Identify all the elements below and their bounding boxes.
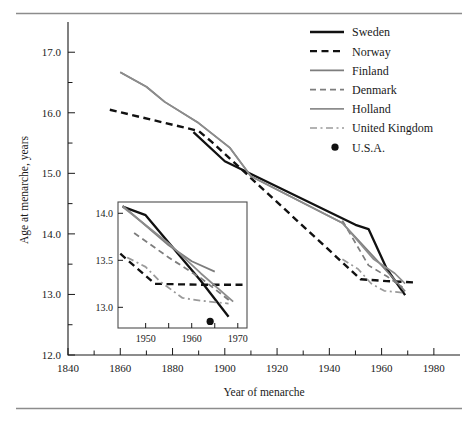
figure-container: 12.013.014.015.016.017.01840186018801900… — [0, 0, 474, 421]
legend-label: Norway — [352, 45, 391, 59]
x-axis-title: Year of menarche — [223, 386, 304, 398]
y-tick-label: 12.0 — [42, 349, 62, 361]
inset-x-tick-label: 1960 — [182, 333, 202, 344]
legend-label: Finland — [352, 64, 389, 78]
inset-chart: 13.013.514.0195019601970 — [96, 202, 248, 344]
x-tick-label: 1940 — [318, 362, 341, 374]
legend-label: Denmark — [352, 83, 397, 97]
x-tick-label: 1840 — [57, 362, 80, 374]
x-tick-label: 1980 — [423, 362, 446, 374]
x-tick-label: 1960 — [371, 362, 394, 374]
x-tick-label: 1900 — [214, 362, 237, 374]
y-tick-label: 14.0 — [42, 228, 62, 240]
y-tick-label: 15.0 — [42, 167, 62, 179]
inset-y-tick-label: 13.0 — [96, 302, 114, 313]
inset-x-tick-label: 1950 — [136, 333, 156, 344]
false — [207, 318, 214, 325]
legend-label: Sweden — [352, 25, 390, 39]
inset-frame — [118, 202, 247, 328]
x-tick-label: 1860 — [109, 362, 132, 374]
x-tick-label: 1880 — [162, 362, 185, 374]
y-tick-label: 16.0 — [42, 107, 62, 119]
menarche-age-line-chart: 12.013.014.015.016.017.01840186018801900… — [0, 0, 474, 421]
inset-x-tick-label: 1970 — [228, 333, 248, 344]
legend-label: United Kingdom — [352, 121, 434, 135]
y-axis-title: Age at menarche, years — [18, 136, 31, 244]
x-tick-label: 1920 — [266, 362, 289, 374]
y-tick-label: 17.0 — [42, 46, 62, 58]
inset-y-tick-label: 13.5 — [96, 255, 114, 266]
y-tick-label: 13.0 — [42, 288, 62, 300]
inset-y-tick-label: 14.0 — [96, 208, 114, 219]
legend-label: U.S.A. — [352, 141, 385, 155]
legend-label: Holland — [352, 102, 391, 116]
false — [331, 144, 338, 151]
